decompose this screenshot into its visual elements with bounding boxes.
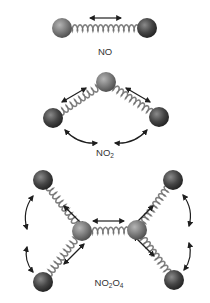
spring-bond — [46, 186, 78, 223]
vibration-arrow-icon — [26, 247, 33, 272]
oxygen-atom — [43, 108, 63, 128]
spring-bond — [142, 186, 169, 224]
nitrogen-atom — [96, 72, 116, 92]
spring-bond — [141, 238, 171, 274]
oxygen-atom — [163, 170, 183, 190]
oxygen-atom — [164, 270, 184, 290]
nitrogen-atom — [52, 18, 72, 38]
vibration-arrow-icon — [65, 130, 97, 143]
label-n2o4: NO2O4 — [69, 277, 149, 289]
nitrogen-atom — [72, 221, 92, 241]
label-no: NO — [65, 46, 145, 57]
spring-bond — [48, 237, 77, 276]
oxygen-atom — [137, 18, 157, 38]
oxygen-atom — [33, 170, 53, 190]
label-no2: NO2 — [65, 147, 145, 159]
spring-bond — [113, 86, 153, 113]
oxygen-atom — [33, 272, 53, 292]
vibration-arrow-icon — [25, 196, 33, 229]
vibration-arrow-icon — [184, 243, 190, 270]
oxygen-atom — [149, 107, 169, 127]
nitrogen-atom — [127, 220, 147, 240]
vibration-arrow-icon — [183, 195, 190, 226]
vibration-arrow-icon — [115, 130, 147, 143]
